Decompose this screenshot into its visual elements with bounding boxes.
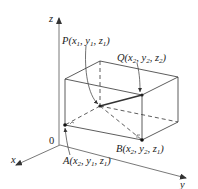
box-diagram: z x y 0 P(x1, y1, z1) Q(x2, y2, z2) B(x2… — [0, 0, 198, 189]
y-axis-label: y — [179, 179, 185, 189]
diagram-svg: z x y 0 P(x1, y1, z1) Q(x2, y2, z2) B(x2… — [0, 0, 198, 189]
label-b: B(x2, y2, z1) — [116, 143, 164, 156]
label-q: Q(x2, y2, z2) — [117, 52, 167, 65]
leader-q — [137, 63, 140, 92]
z-axis-label: z — [48, 13, 53, 24]
leader-p — [86, 46, 99, 104]
x-axis — [16, 145, 60, 165]
point-b — [140, 138, 144, 142]
origin-label: 0 — [49, 135, 54, 146]
leader-a — [65, 128, 70, 155]
x-axis-label: x — [10, 154, 16, 165]
point-a — [63, 123, 67, 127]
point-p — [98, 104, 101, 107]
right-angle-a — [70, 122, 74, 124]
segment-pq — [100, 95, 142, 106]
label-a: A(x2, y1, z1) — [62, 155, 111, 168]
point-q — [140, 93, 143, 96]
